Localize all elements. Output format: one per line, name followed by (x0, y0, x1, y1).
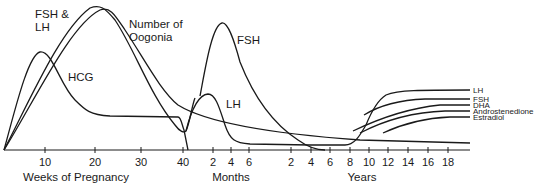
tick-label-year-18: 18 (442, 156, 454, 168)
axis-label-months: Months (212, 171, 250, 183)
tick-label-year-16: 16 (422, 156, 434, 168)
tick-label-year-12: 12 (382, 156, 394, 168)
tick-label-month-2: 2 (210, 156, 216, 168)
tick-label-year-6: 6 (327, 156, 333, 168)
label-lh-infancy: LH (226, 98, 241, 110)
tick-label-week-30: 30 (135, 156, 147, 168)
curve-dha (353, 105, 470, 131)
curve-fsh-infancy (200, 23, 325, 150)
tick-label-year-2: 2 (288, 156, 294, 168)
tick-label-week-10: 10 (39, 156, 51, 168)
tick-label-week-40: 40 (177, 156, 189, 168)
curve-estradiol (383, 117, 470, 133)
hormone-chart: 10 20 30 40 2 4 6 2 4 6 8 10 12 14 16 18… (0, 0, 537, 186)
curve-hcg (4, 52, 188, 150)
label-fsh-infancy: FSH (237, 34, 260, 46)
label-hcg: HCG (68, 71, 94, 83)
axis-label-years: Years (348, 171, 377, 183)
tick-label-year-10: 10 (363, 156, 375, 168)
curve-fsh-puberty (364, 99, 470, 115)
tick-label-week-20: 20 (89, 156, 101, 168)
label-oogonia-1: Number of (129, 18, 183, 30)
tick-label-month-6: 6 (246, 156, 252, 168)
tick-label-year-8: 8 (347, 156, 353, 168)
label-fsh-lh-2: LH (35, 21, 50, 33)
tick-label-month-4: 4 (228, 156, 234, 168)
label-lh-puberty: LH (473, 86, 483, 95)
label-fsh-lh-1: FSH & (35, 8, 69, 20)
label-estradiol: Estradiol (473, 113, 504, 122)
label-oogonia-2: Oogonia (129, 31, 173, 43)
axis-label-weeks: Weeks of Pregnancy (23, 171, 129, 183)
tick-label-year-4: 4 (308, 156, 314, 168)
chart-container: 10 20 30 40 2 4 6 2 4 6 8 10 12 14 16 18… (0, 0, 537, 186)
tick-label-year-14: 14 (402, 156, 414, 168)
